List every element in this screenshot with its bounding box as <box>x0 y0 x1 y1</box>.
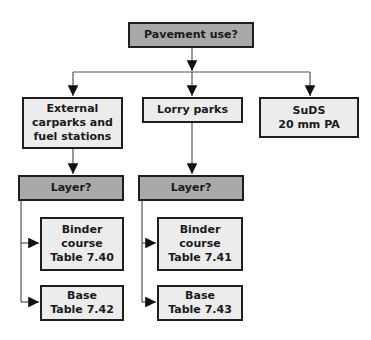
lorry-base-node: Base Table 7.43 <box>157 285 243 321</box>
external-base-node: Base Table 7.42 <box>40 285 124 321</box>
external-binder-course-node: Binder course Table 7.40 <box>40 217 124 271</box>
lorry-layer-question-node: Layer? <box>138 175 244 201</box>
pavement-use-node: Pavement use? <box>128 22 254 48</box>
lorry-parks-node: Lorry parks <box>142 97 243 123</box>
lorry-binder-course-node: Binder course Table 7.41 <box>157 217 243 271</box>
external-layer-question-node: Layer? <box>18 175 124 201</box>
suds-node: SuDS 20 mm PA <box>259 97 359 138</box>
external-carparks-node: External carparks and fuel stations <box>22 97 123 149</box>
